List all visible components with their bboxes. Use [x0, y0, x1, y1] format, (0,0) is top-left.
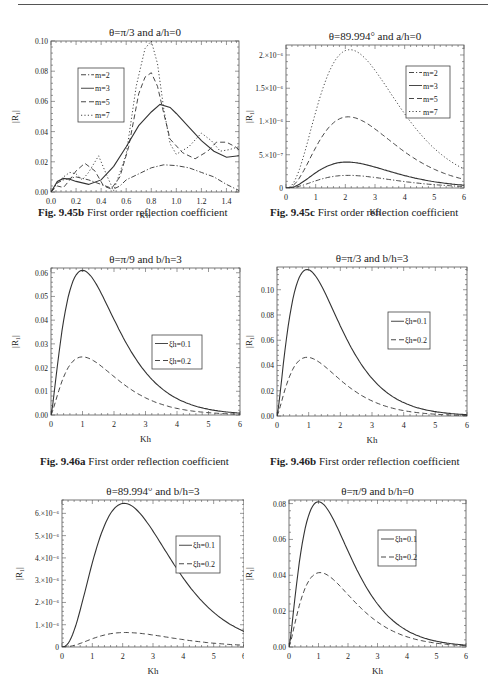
caption-text: First order reflection coefficient: [86, 455, 229, 467]
x-tick-label: 5: [432, 193, 436, 202]
caption-text: First order reflection coefficient: [315, 206, 458, 218]
figure-number: Fig. 9.46a: [40, 455, 86, 467]
x-tick-label: 1: [314, 193, 318, 202]
series-line-m5: [286, 117, 464, 188]
x-tick-label: 1: [317, 652, 321, 661]
x-tick-label: 0: [275, 421, 279, 430]
legend-entry-label: m=5: [95, 98, 110, 107]
axis-ticks: [289, 500, 466, 647]
series-line-h01: [277, 270, 467, 417]
x-tick-label: 4: [405, 652, 409, 661]
x-tick-label: 5: [212, 652, 216, 661]
x-tick-label: 5: [435, 652, 439, 661]
y-tick-label: 0.00: [35, 411, 48, 420]
y-tick-label: 5.×10⁻⁶: [35, 532, 59, 541]
fig-9-45b-figure: θ=π/3 and a/h=00.00.20.40.60.81.01.21.40…: [0, 8, 244, 218]
x-tick-label: 3: [370, 421, 374, 430]
y-tick-label: 0: [279, 184, 283, 193]
y-tick-label: 0.04: [273, 571, 286, 580]
fig-9-46b-figure: θ=π/3 and b/h=301234560.000.020.040.060.…: [244, 255, 488, 455]
fig-9-46d-figure: θ=π/9 and b/h=001234560.000.020.040.060.…: [244, 488, 488, 675]
chart-title: θ=π/3 and a/h=0: [109, 26, 182, 38]
x-tick-label: 6: [238, 420, 242, 429]
legend-entry-label: m=5: [423, 95, 438, 104]
fig-9-45c-figure: θ=89.994° and a/h=0012345605.×10⁻⁷1.×10⁻…: [244, 8, 488, 218]
x-tick-label: 6: [462, 193, 466, 202]
y-tick-label: 0.06: [261, 336, 274, 345]
x-tick-label: 3: [144, 420, 148, 429]
y-axis-label: |R₁|: [244, 567, 254, 580]
y-tick-label: 1.×10⁻⁶: [35, 621, 59, 630]
chart-title: θ=π/9 and b/h=0: [341, 488, 414, 497]
y-tick-label: 3.×10⁻⁶: [35, 576, 59, 585]
y-tick-label: 1.×10⁻⁶: [259, 117, 283, 126]
y-tick-label: 0.02: [35, 364, 48, 373]
x-tick-label: 0: [287, 652, 291, 661]
x-tick-label: 4: [181, 652, 185, 661]
figure-caption: Fig. 9.45c First order reflection coeffi…: [270, 206, 458, 218]
y-tick-label: 0.00: [273, 643, 286, 652]
fig-9-46b-chart: θ=π/3 and b/h=301234560.000.020.040.060.…: [244, 255, 488, 455]
y-tick-label: 0.02: [35, 158, 48, 167]
plot-frame: [51, 268, 240, 415]
chart-title: θ=89.994° and b/h=3: [106, 488, 200, 497]
y-tick-label: 0.08: [35, 67, 48, 76]
legend-entry-label: ξh=0.2: [405, 336, 427, 345]
x-tick-label: 2: [338, 421, 342, 430]
x-tick-label: 4: [175, 420, 179, 429]
y-axis-label: |R₁|: [244, 335, 254, 348]
x-tick-label: 1: [81, 420, 85, 429]
x-tick-label: 0.2: [71, 197, 81, 206]
fig-9-46a-chart: θ=π/9 and b/h=301234560.000.010.020.030.…: [0, 255, 244, 455]
y-tick-label: 0.02: [273, 607, 286, 616]
chart-legend: ξh=0.1ξh=0.2: [388, 312, 430, 349]
x-axis-label: Kh: [148, 666, 159, 675]
x-tick-label: 0: [60, 652, 64, 661]
x-axis-label: Kh: [367, 435, 378, 445]
x-tick-label: 0.8: [146, 197, 156, 206]
chart-legend: m=2m=3m=5m=7: [78, 68, 124, 122]
y-tick-label: 0.10: [261, 286, 274, 295]
figure-number: Fig. 9.45c: [270, 206, 315, 218]
y-tick-label: 0.02: [261, 387, 274, 396]
figure-caption: Fig. 9.46b First order reflection coeffi…: [270, 455, 460, 467]
x-axis-label: Kh: [140, 434, 151, 444]
legend-entry-label: m=7: [423, 108, 438, 117]
axis-ticks: [277, 267, 467, 416]
x-tick-label: 2: [343, 193, 347, 202]
figure-number: Fig. 9.46b: [270, 455, 316, 467]
legend-entry-label: ξh=0.2: [193, 560, 215, 569]
page-header-rule: [18, 4, 488, 5]
legend-entry-label: ξh=0.2: [395, 553, 417, 562]
y-tick-label: 0.10: [35, 37, 48, 46]
series-line-h01: [51, 270, 240, 415]
y-tick-label: 0.08: [273, 500, 286, 509]
axis-ticks: [51, 268, 240, 415]
y-tick-label: 0.04: [35, 128, 48, 137]
y-tick-label: 0.01: [35, 387, 48, 396]
caption-text: First order reflection coefficient: [84, 206, 227, 218]
y-tick-label: 0.06: [35, 269, 48, 278]
caption-text: First order reflection coefficient: [316, 455, 459, 467]
legend-entry-label: ξh=0.2: [169, 357, 191, 366]
legend-entry-label: m=2: [95, 71, 110, 80]
legend-entry-label: m=7: [95, 111, 110, 120]
y-tick-label: 0.00: [35, 188, 48, 197]
fig-9-45c-chart: θ=89.994° and a/h=0012345605.×10⁻⁷1.×10⁻…: [244, 8, 488, 218]
plot-frame: [277, 267, 467, 416]
y-tick-label: 2.×10⁻⁶: [259, 51, 283, 60]
chart-title: θ=89.994° and a/h=0: [329, 30, 422, 42]
x-tick-label: 0.0: [46, 197, 56, 206]
x-tick-label: 1.0: [171, 197, 181, 206]
x-tick-label: 1: [307, 421, 311, 430]
series-line-h02: [277, 357, 467, 416]
chart-legend: ξh=0.1ξh=0.2: [378, 530, 417, 566]
x-tick-label: 0.4: [96, 197, 106, 206]
x-tick-label: 6: [464, 652, 468, 661]
series-line-m2: [51, 165, 239, 192]
fig-9-46a-figure: θ=π/9 and b/h=301234560.000.010.020.030.…: [0, 255, 244, 455]
x-tick-label: 3: [376, 652, 380, 661]
x-tick-label: 3: [151, 652, 155, 661]
x-tick-label: 0: [49, 420, 53, 429]
x-tick-label: 0.6: [121, 197, 131, 206]
